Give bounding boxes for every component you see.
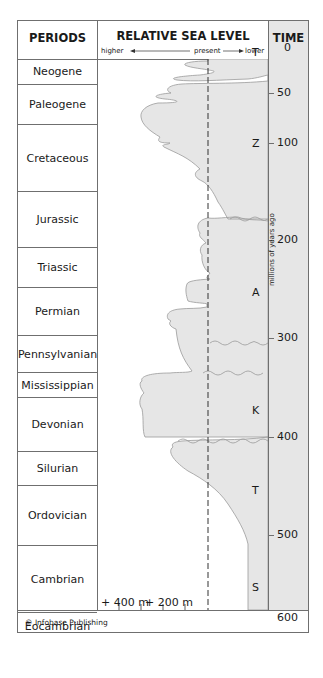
period-row: Cambrian	[18, 546, 97, 613]
period-row: Silurian	[18, 452, 97, 486]
time-tick-label: 300	[277, 331, 298, 344]
copyright-footer: © Infobase Publishing	[18, 610, 308, 633]
period-row: Mississippian	[18, 373, 97, 398]
period-row: Devonian	[18, 398, 97, 452]
time-tick-label: 400	[277, 430, 298, 443]
chart-frame: PERIODS RELATIVE SEA LEVEL TIME higher p…	[17, 20, 309, 633]
time-tick-mark	[269, 93, 274, 94]
period-row: Paleogene	[18, 85, 97, 125]
period-row: Ordovician	[18, 486, 97, 546]
scale-label-200: + 200 m	[145, 596, 193, 609]
time-tick-label: 100	[277, 136, 298, 149]
time-tick-label: 500	[277, 528, 298, 541]
time-tick-label: 50	[277, 86, 291, 99]
time-tick-mark	[269, 143, 274, 144]
period-row: Pennsylvanian	[18, 336, 97, 373]
period-row: Jurassic	[18, 192, 97, 248]
time-tick-label: 0	[284, 41, 291, 54]
time-tick-label: 200	[277, 233, 298, 246]
sequence-label: T	[252, 484, 259, 497]
sequence-label: A	[252, 286, 260, 299]
time-tick-mark	[269, 437, 274, 438]
time-tick-mark	[269, 338, 274, 339]
period-row: Neogene	[18, 59, 97, 85]
periods-header: PERIODS	[18, 31, 97, 45]
scale-label-400: + 400 m	[101, 596, 149, 609]
sea-level-curve	[98, 59, 268, 610]
period-row: Permian	[18, 288, 97, 336]
period-row: Triassic	[18, 248, 97, 288]
sequence-label: K	[252, 404, 259, 417]
time-column-bg	[269, 21, 308, 610]
sequence-label: Z	[252, 137, 260, 150]
time-tick-mark	[269, 535, 274, 536]
direction-arrows	[98, 45, 268, 57]
sequence-label: T	[252, 46, 259, 59]
sea-level-header: RELATIVE SEA LEVEL	[98, 29, 268, 43]
sequence-label: S	[252, 581, 259, 594]
period-row: Cretaceous	[18, 125, 97, 192]
